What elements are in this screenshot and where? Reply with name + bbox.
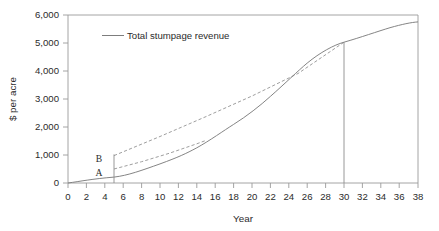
series-tangent-from-b — [114, 42, 344, 155]
x-tick-label: 18 — [228, 191, 239, 202]
series-total-stumpage-revenue — [68, 22, 418, 183]
y-tick-label: 6,000 — [35, 9, 59, 20]
x-tick-label: 2 — [84, 191, 89, 202]
annotation-label-a: A — [96, 167, 103, 178]
x-axis-ticks: 0 2 4 6 8 10 12 14 16 18 20 22 24 26 28 … — [65, 183, 423, 202]
x-tick-label: 30 — [339, 191, 350, 202]
x-tick-label: 24 — [283, 191, 294, 202]
y-axis-title: $ per acre — [7, 76, 18, 121]
x-axis-title: Year — [233, 213, 254, 224]
y-tick-label: 4,000 — [35, 65, 59, 76]
annotation-label-b: B — [96, 153, 102, 164]
plot-frame — [68, 15, 418, 183]
reference-lines-group — [114, 42, 344, 183]
series-group — [68, 22, 418, 183]
y-tick-label: 2,000 — [35, 121, 59, 132]
y-axis-ticks: 0 1,000 2,000 3,000 4,000 5,000 6,000 — [35, 9, 68, 188]
x-tick-label: 20 — [247, 191, 258, 202]
annotations-group: A B — [96, 153, 103, 178]
chart-container: 0 1,000 2,000 3,000 4,000 5,000 6,000 — [0, 0, 439, 231]
x-tick-label: 10 — [155, 191, 166, 202]
stumpage-revenue-line-chart: 0 1,000 2,000 3,000 4,000 5,000 6,000 — [0, 0, 439, 231]
x-tick-label: 22 — [265, 191, 276, 202]
x-tick-label: 28 — [320, 191, 331, 202]
x-tick-label: 26 — [302, 191, 313, 202]
x-tick-label: 16 — [210, 191, 221, 202]
x-tick-label: 36 — [394, 191, 405, 202]
x-tick-label: 14 — [191, 191, 202, 202]
y-tick-label: 3,000 — [35, 93, 59, 104]
x-tick-label: 34 — [375, 191, 386, 202]
y-tick-label: 0 — [54, 177, 59, 188]
x-tick-label: 32 — [357, 191, 368, 202]
legend: Total stumpage revenue — [102, 30, 229, 41]
x-tick-label: 38 — [413, 191, 424, 202]
x-tick-label: 12 — [173, 191, 184, 202]
y-tick-label: 5,000 — [35, 37, 59, 48]
series-tangent-from-a — [114, 140, 206, 169]
x-tick-label: 8 — [139, 191, 144, 202]
legend-label: Total stumpage revenue — [127, 30, 229, 41]
x-tick-label: 4 — [102, 191, 108, 202]
y-tick-label: 1,000 — [35, 149, 59, 160]
x-tick-label: 6 — [121, 191, 126, 202]
x-tick-label: 0 — [65, 191, 70, 202]
